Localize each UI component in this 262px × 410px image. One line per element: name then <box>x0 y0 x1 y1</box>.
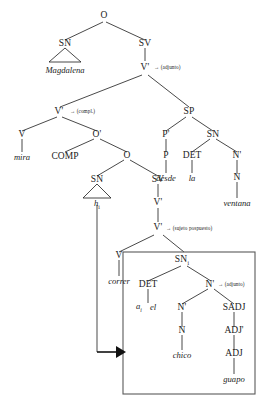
annotation-adjunto-boxed: → (adjunto) <box>218 282 245 287</box>
node-vbar-compl: V' <box>55 107 64 117</box>
node-v-mira: V <box>18 130 25 140</box>
node-v-star: V' <box>154 223 163 233</box>
word-trace: hi <box>94 199 100 210</box>
word-desde: desde <box>156 174 176 183</box>
node-adj: ADJ <box>225 349 242 359</box>
node-v-correr: V <box>115 251 122 261</box>
node-p: P <box>163 151 168 161</box>
node-vbar-adjunct: V' <box>141 63 150 73</box>
node-adjbar: ADJ' <box>224 326 243 336</box>
syntax-tree-diagram: O SN SV V' V' V O' COMP O SN SV V' V' V … <box>0 0 262 410</box>
word-det-a: ai <box>136 302 142 313</box>
node-sn-subject: SN <box>59 39 72 49</box>
movement-arrow <box>97 346 126 358</box>
node-pbar: P' <box>162 130 169 140</box>
node-n-chico: N <box>178 326 185 336</box>
node-obar: O' <box>93 130 102 140</box>
node-sadj: SADJ <box>223 303 246 313</box>
node-det-la: DET <box>183 151 201 161</box>
word-la: la <box>189 174 196 183</box>
node-sp: SP <box>184 107 195 117</box>
word-mira: mira <box>14 153 30 162</box>
node-sn-boxed: SNi <box>175 255 189 266</box>
node-o-root: O <box>100 11 107 21</box>
word-det-el: el <box>150 303 156 312</box>
node-nbar-inner: N' <box>178 303 187 313</box>
sn-boxed-subscript: i <box>187 260 189 266</box>
word-guapo: guapo <box>223 375 244 384</box>
node-n-ventana: N <box>233 173 240 183</box>
node-o-embedded: O <box>123 151 130 161</box>
annotation-sujeto-pospuesto: → (sujeto pospuesto) <box>166 226 212 231</box>
node-comp: COMP <box>52 152 79 162</box>
node-vbar-star: V' <box>154 198 163 208</box>
node-sv-top: SV <box>139 39 152 49</box>
word-chico: chico <box>173 351 192 360</box>
node-det-boxed: DET <box>139 280 157 290</box>
word-magdalena: Magdalena <box>45 66 84 75</box>
annotation-compl: → (compl.) <box>70 109 95 114</box>
node-nbar-right: N' <box>233 151 242 161</box>
word-ventana: ventana <box>223 199 250 208</box>
node-sn-right: SN <box>207 130 220 140</box>
annotation-adjunto-top: → (adjunto) <box>154 65 181 70</box>
boxed-constituent <box>123 252 255 394</box>
node-sn-trace: SN <box>91 175 104 185</box>
word-correr: correr <box>108 277 130 286</box>
node-nbar-boxed: N' <box>206 280 215 290</box>
